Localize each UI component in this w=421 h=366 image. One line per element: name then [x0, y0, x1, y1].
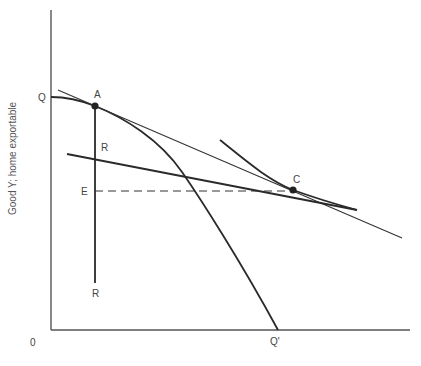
label-r-top: R: [101, 142, 108, 153]
point-a: [91, 102, 98, 109]
terms-of-trade-line: [58, 90, 402, 238]
indifference-curve: [220, 140, 357, 210]
label-a: A: [94, 89, 101, 100]
trade-diagram: Q A R E R C Q' 0 Good Y; home exportable: [0, 0, 421, 366]
label-origin: 0: [30, 337, 36, 348]
label-q-prime: Q': [270, 336, 280, 347]
label-q: Q: [38, 92, 46, 103]
label-r-bottom: R: [92, 288, 99, 299]
label-c: C: [293, 174, 300, 185]
consumption-budget-line: [67, 154, 357, 210]
production-possibility-curve: [51, 97, 278, 330]
point-c: [289, 186, 296, 193]
y-axis-label: Good Y; home exportable: [7, 101, 18, 215]
label-e: E: [81, 186, 88, 197]
